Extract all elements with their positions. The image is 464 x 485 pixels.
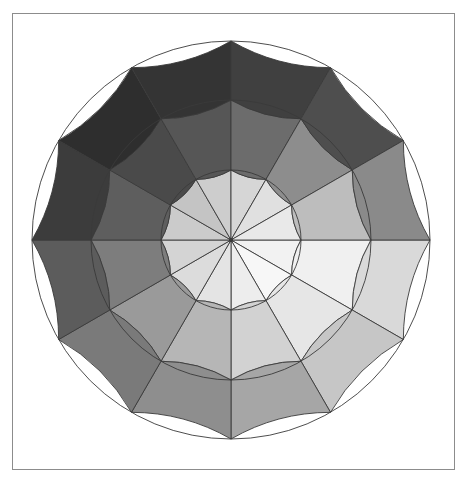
color-wheel-figure [0, 0, 464, 485]
color-wheel-svg [0, 0, 464, 485]
wheel-center-dot [229, 238, 233, 242]
page-root [0, 0, 464, 485]
